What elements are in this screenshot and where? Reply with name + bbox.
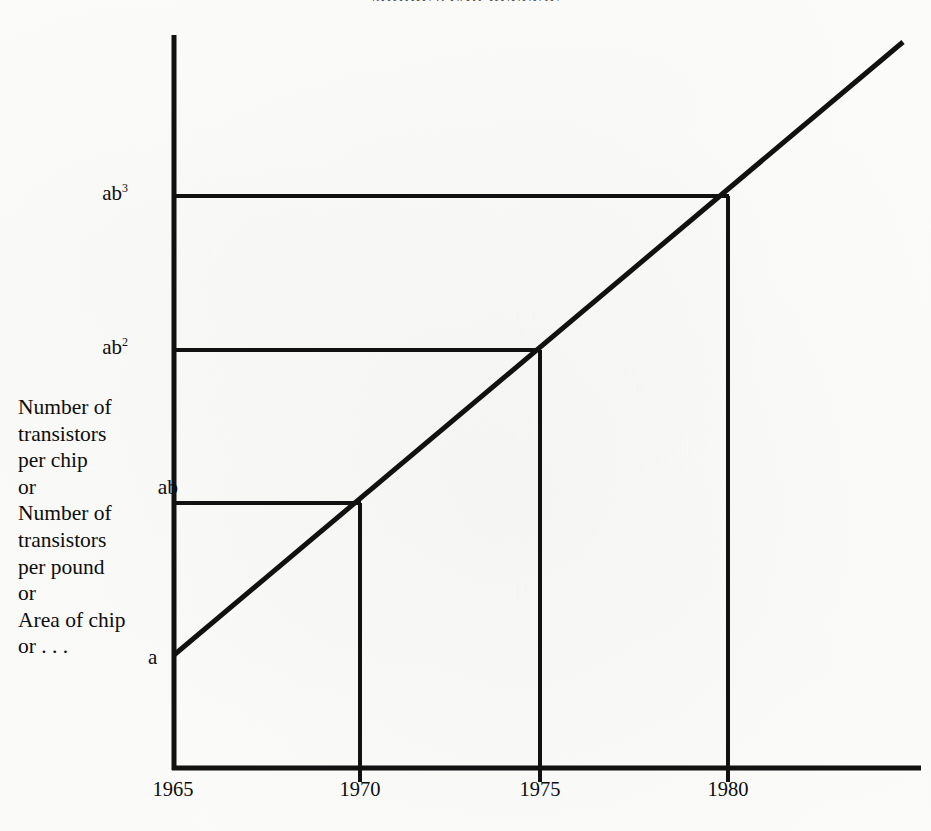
y-axis-caption-line-4: orab: [18, 477, 178, 504]
y-tick-label-ab2: ab2: [8, 337, 128, 358]
y-axis-caption: Number of transistors per chip orab Numb…: [18, 397, 178, 663]
y-axis-caption-line-2: transistors: [18, 424, 178, 451]
figure-canvas: MOORE'S LAW DECLINE ab3 ab2 Number of tr…: [0, 0, 931, 831]
y-axis-caption-line-8: or: [18, 583, 178, 610]
x-tick-label-1975: 1975: [495, 779, 585, 800]
y-tick-label-ab3: ab3: [8, 183, 128, 204]
y-tick-label-ab: ab: [158, 477, 178, 499]
x-tick-label-1965: 1965: [128, 779, 218, 800]
y-tick-ab3-exponent: 3: [122, 181, 128, 195]
y-tick-ab2-base: ab: [102, 335, 122, 359]
y-axis-caption-line-7: per pound: [18, 557, 178, 584]
y-axis-caption-line-9: Area of chip: [18, 610, 178, 637]
y-axis-caption-line-4-text: or: [18, 475, 36, 499]
y-axis-caption-line-1: Number of: [18, 397, 178, 424]
y-axis-caption-line-5: Number of: [18, 503, 178, 530]
y-tick-ab2-exponent: 2: [122, 335, 128, 349]
y-axis-caption-line-6: transistors: [18, 530, 178, 557]
x-tick-label-1970: 1970: [315, 779, 405, 800]
y-tick-label-a: a: [148, 647, 157, 668]
x-tick-label-1980: 1980: [683, 779, 773, 800]
y-axis-caption-line-3: per chip: [18, 450, 178, 477]
y-tick-ab3-base: ab: [102, 181, 122, 205]
